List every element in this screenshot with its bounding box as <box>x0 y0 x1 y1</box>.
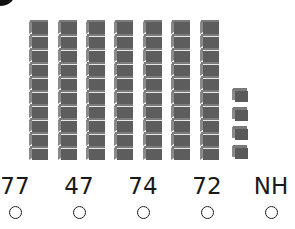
unit-cube <box>200 90 219 104</box>
unit-cube <box>86 76 105 90</box>
unit-cube <box>171 90 190 104</box>
unit-cube <box>143 76 162 90</box>
choice-radio-button[interactable] <box>201 206 214 219</box>
unit-cube <box>200 20 219 34</box>
unit-cube <box>143 20 162 34</box>
unit-cube <box>114 146 133 160</box>
unit-cube <box>29 20 48 34</box>
unit-cube <box>171 118 190 132</box>
unit-cube <box>29 118 48 132</box>
unit-cube <box>29 62 48 76</box>
unit-cube <box>114 90 133 104</box>
ten-rod <box>143 20 162 160</box>
ten-rod <box>114 20 133 160</box>
choice-label: NH <box>246 173 295 199</box>
unit-cube <box>200 48 219 62</box>
unit-cube <box>58 62 77 76</box>
unit-cube <box>143 118 162 132</box>
unit-cube <box>200 34 219 48</box>
unit-cube <box>86 48 105 62</box>
answer-choice[interactable]: 72 <box>182 173 232 219</box>
choice-radio-button[interactable] <box>137 206 150 219</box>
unit-cube <box>29 48 48 62</box>
unit-cube <box>114 132 133 146</box>
unit-cube <box>200 76 219 90</box>
unit-cube <box>86 34 105 48</box>
unit-cube <box>86 104 105 118</box>
unit-cube <box>58 34 77 48</box>
unit-cube <box>58 146 77 160</box>
one-cube <box>232 126 248 140</box>
choice-radio-button[interactable] <box>73 206 86 219</box>
unit-cube <box>143 146 162 160</box>
unit-cube <box>58 118 77 132</box>
answer-choice[interactable]: 77 <box>0 173 40 219</box>
unit-cube <box>86 20 105 34</box>
ten-rod <box>58 20 77 160</box>
choice-label: 47 <box>54 173 104 199</box>
unit-cube <box>200 104 219 118</box>
unit-cube <box>114 62 133 76</box>
unit-cube <box>86 118 105 132</box>
answer-choice[interactable]: 47 <box>54 173 104 219</box>
unit-cube <box>143 34 162 48</box>
one-cube <box>232 88 248 102</box>
unit-cube <box>171 62 190 76</box>
unit-cube <box>58 76 77 90</box>
unit-cube <box>171 76 190 90</box>
unit-cube <box>171 146 190 160</box>
unit-cube <box>114 76 133 90</box>
one-cube <box>232 145 248 159</box>
unit-cube <box>114 118 133 132</box>
unit-cube <box>200 146 219 160</box>
one-cube <box>232 107 248 121</box>
unit-cube <box>86 146 105 160</box>
answer-choice[interactable]: 74 <box>118 173 168 219</box>
unit-cube <box>114 34 133 48</box>
unit-cube <box>200 118 219 132</box>
choice-label: 74 <box>118 173 168 199</box>
unit-cube <box>171 34 190 48</box>
unit-cube <box>114 20 133 34</box>
unit-cube <box>114 48 133 62</box>
ten-rod <box>171 20 190 160</box>
unit-cube <box>29 34 48 48</box>
unit-cube <box>29 132 48 146</box>
unit-cube <box>171 20 190 34</box>
unit-cube <box>58 132 77 146</box>
unit-cube <box>171 48 190 62</box>
unit-cube <box>29 90 48 104</box>
choice-label: 77 <box>0 173 40 199</box>
unit-cube <box>143 132 162 146</box>
unit-cube <box>86 90 105 104</box>
unit-cube <box>29 104 48 118</box>
unit-cube <box>58 20 77 34</box>
choice-label: 72 <box>182 173 232 199</box>
answer-choice[interactable]: NH <box>246 173 295 219</box>
corner-decoration <box>0 0 14 6</box>
unit-cube <box>58 48 77 62</box>
unit-cube <box>143 90 162 104</box>
unit-cube <box>86 62 105 76</box>
unit-cube <box>58 104 77 118</box>
unit-cube <box>143 48 162 62</box>
unit-cube <box>143 62 162 76</box>
unit-cube <box>171 132 190 146</box>
unit-cube <box>200 132 219 146</box>
unit-cube <box>29 146 48 160</box>
unit-cube <box>171 104 190 118</box>
ten-rod <box>29 20 48 160</box>
unit-cube <box>114 104 133 118</box>
ten-rod <box>86 20 105 160</box>
unit-cube <box>86 132 105 146</box>
unit-cube <box>200 62 219 76</box>
choice-radio-button[interactable] <box>265 206 278 219</box>
ten-rod <box>200 20 219 160</box>
choice-radio-button[interactable] <box>9 206 22 219</box>
unit-cube <box>58 90 77 104</box>
unit-cube <box>143 104 162 118</box>
unit-cube <box>29 76 48 90</box>
